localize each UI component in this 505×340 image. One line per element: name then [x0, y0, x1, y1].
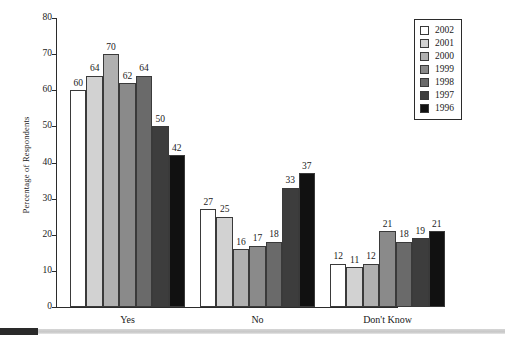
bar-value-label: 16: [236, 238, 246, 248]
bar[interactable]: [429, 231, 445, 307]
bar-value-label: 33: [286, 176, 296, 186]
bar[interactable]: [70, 90, 86, 307]
footer-strip: [0, 328, 505, 335]
bar[interactable]: [233, 249, 249, 307]
bar-slot: 42: [169, 18, 185, 307]
legend-color-swatch: [420, 104, 429, 113]
y-axis-tick-mark: [52, 18, 56, 19]
bar[interactable]: [266, 242, 282, 307]
legend-item-label: 1997: [435, 91, 454, 101]
bar[interactable]: [86, 76, 102, 307]
footer-accent-block: [0, 328, 38, 335]
y-axis-line: [56, 18, 57, 308]
bar-value-label: 64: [90, 64, 100, 74]
legend-item[interactable]: 1997: [420, 89, 454, 102]
bar[interactable]: [346, 267, 362, 307]
bar-value-label: 18: [399, 230, 409, 240]
legend-item-label: 2000: [435, 52, 454, 62]
legend-item-label: 2002: [435, 26, 454, 36]
bar[interactable]: [363, 264, 379, 307]
legend-item[interactable]: 2002: [420, 24, 454, 37]
bar-slot: 12: [330, 18, 346, 307]
bar[interactable]: [396, 242, 412, 307]
legend-color-swatch: [420, 65, 429, 74]
bar[interactable]: [282, 188, 298, 307]
legend-item-label: 1998: [435, 78, 454, 88]
bar-group: 60647062645042Yes: [70, 18, 185, 307]
y-axis-tick-label: 10: [22, 266, 52, 276]
legend-color-swatch: [420, 91, 429, 100]
legend-item[interactable]: 2001: [420, 37, 454, 50]
y-axis-tick-mark: [52, 90, 56, 91]
bar-slot: 70: [103, 18, 119, 307]
plot-area: 01020304050607080 60647062645042Yes27251…: [56, 18, 398, 308]
y-axis-tick-label: 20: [22, 230, 52, 240]
legend-color-swatch: [420, 52, 429, 61]
bar-value-label: 70: [106, 43, 116, 53]
bar-slot: 50: [152, 18, 168, 307]
bar-slot: 16: [233, 18, 249, 307]
bar[interactable]: [152, 126, 168, 307]
legend-item-label: 1999: [435, 65, 454, 75]
bar-value-label: 12: [366, 252, 376, 262]
bar-slot: 11: [346, 18, 362, 307]
legend-item[interactable]: 1999: [420, 63, 454, 76]
legend-item-label: 2001: [435, 39, 454, 49]
chart-legend[interactable]: 2002200120001999199819971996: [414, 19, 462, 120]
y-axis-tick-label: 50: [22, 122, 52, 132]
bar-chart-figure: Percentage of Respondents 01020304050607…: [0, 0, 505, 340]
bar-value-label: 64: [139, 64, 149, 74]
bar-value-label: 62: [123, 72, 133, 82]
bar-slot: 12: [363, 18, 379, 307]
bar[interactable]: [379, 231, 395, 307]
bar-slot: 27: [200, 18, 216, 307]
bar[interactable]: [216, 217, 232, 307]
y-axis-tick-mark: [52, 271, 56, 272]
bar[interactable]: [330, 264, 346, 307]
bar-slot: 64: [136, 18, 152, 307]
y-axis-tick-mark: [52, 307, 56, 308]
x-axis-category-label: Don't Know: [330, 314, 445, 325]
y-axis-tick-label: 30: [22, 194, 52, 204]
bar[interactable]: [136, 76, 152, 307]
bar-slot: 62: [119, 18, 135, 307]
y-axis-tick-mark: [52, 126, 56, 127]
bar-slot: 64: [86, 18, 102, 307]
y-axis-tick-mark: [52, 163, 56, 164]
x-axis-category-label: No: [200, 314, 315, 325]
bar-value-label: 27: [203, 198, 213, 208]
y-axis-tick-label: 60: [22, 86, 52, 96]
bar[interactable]: [103, 54, 119, 307]
bar-slot: 25: [216, 18, 232, 307]
bar[interactable]: [200, 209, 216, 307]
footer-gradient-bar: [38, 329, 505, 334]
bar-slot: 33: [282, 18, 298, 307]
y-axis-tick-label: 0: [22, 302, 52, 312]
y-axis-tick-mark: [52, 235, 56, 236]
legend-item-label: 1996: [435, 104, 454, 114]
legend-color-swatch: [420, 39, 429, 48]
bar-slot: 21: [379, 18, 395, 307]
y-axis-tick-mark: [52, 54, 56, 55]
legend-item[interactable]: 1996: [420, 102, 454, 115]
bar[interactable]: [412, 238, 428, 307]
bar-slot: 18: [266, 18, 282, 307]
bar-group: 27251617183337No: [200, 18, 315, 307]
bar[interactable]: [249, 246, 265, 307]
y-axis-tick-label: 40: [22, 158, 52, 168]
legend-item[interactable]: 1998: [420, 76, 454, 89]
bar-value-label: 12: [333, 252, 343, 262]
bar[interactable]: [299, 173, 315, 307]
y-axis-tick-label: 70: [22, 49, 52, 59]
y-axis-tick-mark: [52, 199, 56, 200]
bar[interactable]: [119, 83, 135, 307]
bar-slot: 18: [396, 18, 412, 307]
bar-value-label: 25: [220, 205, 230, 215]
bar-group-bars: 27251617183337: [200, 18, 315, 307]
bar[interactable]: [169, 155, 185, 307]
bar-value-label: 11: [350, 256, 359, 266]
bar-value-label: 21: [432, 220, 442, 230]
bar-value-label: 50: [156, 115, 166, 125]
legend-item[interactable]: 2000: [420, 50, 454, 63]
bar-slot: 37: [299, 18, 315, 307]
